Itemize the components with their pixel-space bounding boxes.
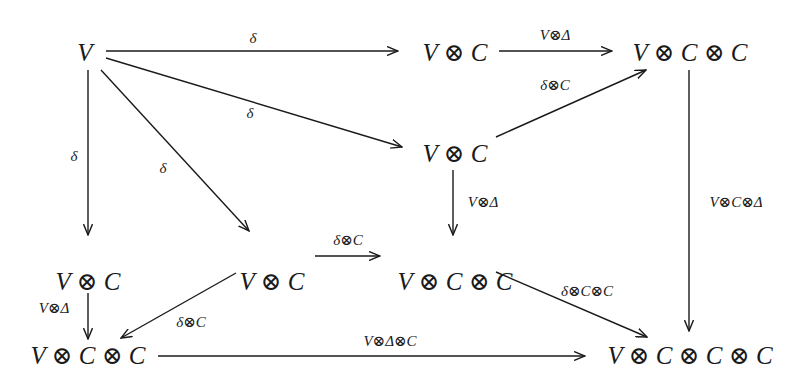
object-node: V ⊗ C ⊗ C bbox=[632, 40, 747, 65]
morphism-label: δ bbox=[71, 149, 78, 164]
morphism-label: V⊗Δ bbox=[540, 28, 571, 43]
morphism-label: V⊗C⊗Δ bbox=[709, 195, 762, 210]
morphism-label: V⊗Δ bbox=[468, 195, 499, 210]
object-node: V bbox=[77, 40, 92, 65]
morphism-label: δ⊗C bbox=[540, 78, 570, 93]
arrow-e3 bbox=[106, 58, 402, 147]
morphism-label: δ⊗C bbox=[176, 315, 206, 330]
morphism-label: δ bbox=[160, 161, 167, 176]
object-node: V ⊗ C bbox=[423, 141, 488, 166]
arrow-e4 bbox=[496, 70, 646, 137]
morphism-label: V⊗Δ bbox=[39, 301, 70, 316]
commutative-diagram: VV ⊗ CV ⊗ C ⊗ CV ⊗ CV ⊗ CV ⊗ CV ⊗ C ⊗ CV… bbox=[0, 0, 808, 382]
morphism-label: δ bbox=[247, 106, 254, 121]
object-node: V ⊗ C bbox=[423, 40, 488, 65]
object-node: V ⊗ C ⊗ C bbox=[397, 269, 512, 294]
object-node: V ⊗ C bbox=[56, 269, 121, 294]
object-node: V ⊗ C bbox=[240, 269, 305, 294]
object-node: V ⊗ C ⊗ C ⊗ C bbox=[607, 343, 772, 368]
morphism-label: V⊗Δ⊗C bbox=[363, 334, 416, 349]
object-node: V ⊗ C ⊗ C bbox=[30, 343, 145, 368]
morphism-label: δ bbox=[250, 31, 257, 46]
morphism-label: δ⊗C⊗C bbox=[561, 284, 613, 299]
morphism-label: δ⊗C bbox=[333, 233, 363, 248]
